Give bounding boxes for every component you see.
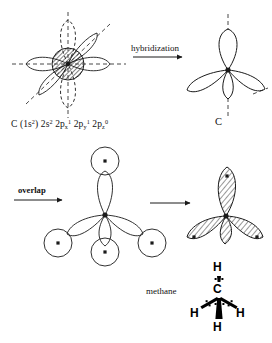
structure-h-top: H	[213, 261, 222, 273]
bonding-lobes	[187, 167, 263, 244]
hybridization-arrow-label: hybridization	[131, 44, 179, 53]
ground-state-orbital-diagram	[12, 12, 126, 118]
chemistry-figure: C (1s2) 2s2 2px1 2py1 2pz0 hybridization…	[0, 0, 272, 343]
hydrogen-nucleus-dots	[56, 159, 153, 253]
structure-h-left: H	[190, 307, 199, 319]
structure-h-right: H	[236, 307, 245, 319]
hybrid-axes	[228, 14, 268, 116]
overlap-arrow-label: overlap	[18, 186, 46, 195]
bonded-nucleus-dot	[223, 213, 228, 218]
carbon-atom-label: C	[215, 117, 222, 128]
nucleus-dot	[66, 62, 70, 66]
config-orbital-2pz-sup: 0	[105, 118, 108, 125]
bond-c-h-right	[219, 297, 238, 309]
orbital-overlap-diagram	[44, 147, 166, 266]
config-orbital-2px: 2p	[55, 119, 65, 129]
electron-configuration-label: C (1s2) 2s2 2px1 2py1 2pz0	[11, 120, 108, 130]
structure-c-center: C	[213, 283, 222, 295]
methane-label: methane	[146, 287, 177, 296]
methane-bonding-orbitals-diagram	[187, 167, 263, 244]
config-orbital-2py: 2p	[74, 119, 84, 129]
overlap-hybrid-lobes	[67, 171, 143, 246]
config-orbital-2pz: 2p	[92, 119, 102, 129]
structure-h-bottom: H	[213, 321, 222, 333]
config-core: (1s	[20, 119, 32, 129]
hybrid-nucleus-dot	[225, 67, 230, 72]
bond-c-h-bottom	[215, 298, 222, 319]
hybrid-lobes	[187, 29, 265, 99]
sp3-hybrid-orbital-diagram	[187, 14, 268, 116]
hydrogen-1s-orbitals	[44, 147, 166, 266]
overlap-nucleus-dot	[102, 212, 107, 217]
